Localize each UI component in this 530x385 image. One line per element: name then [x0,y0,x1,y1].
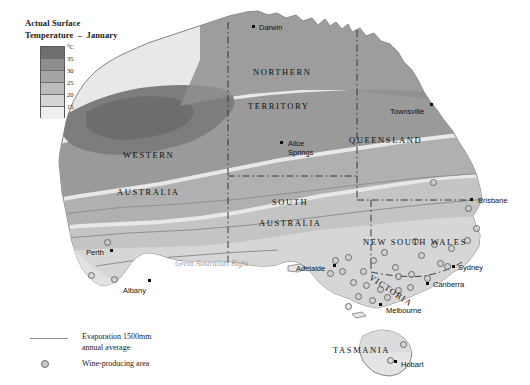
city-label-melbourne: Melbourne [386,307,421,316]
state-label-australia: AUSTRALIA [117,187,180,197]
wine-area-symbol [41,360,49,368]
legend-tick-15: 15 [67,103,74,110]
city-marker [470,198,473,201]
city-marker [280,141,283,144]
legend-band [41,95,64,107]
legend-title: Actual Surface Temperature – January [25,18,118,41]
legend-band [41,71,64,83]
city-marker [110,249,113,252]
city-marker [148,279,151,282]
map-figure: Actual Surface Temperature – January °C … [0,0,530,385]
temperature-scale [40,46,65,118]
sea-label: Great Australian Bight [175,258,248,269]
city-marker [252,25,255,28]
legend-band [41,47,64,59]
city-label-townsville: Townsville [390,108,424,117]
city-marker [379,303,382,306]
city-marker [430,103,433,106]
state-label-south: SOUTH [272,197,308,207]
city-label-hobart: Hobart [401,361,424,370]
city-label-sydney: Sydney [458,264,483,273]
city-label-alice: Alice Springs [288,140,313,157]
state-label-queensland: QUEENSLAND [349,135,422,145]
evaporation-legend-label: Evaporation 1500mm annual average [82,331,152,353]
legend-band [41,59,64,71]
city-marker [452,265,455,268]
sea-label: Gulf of Carpentaria [305,23,345,45]
australia-map [0,0,530,385]
legend-band [41,83,64,95]
city-label-canberra: Canberra [433,281,464,290]
city-label-perth: Perth [86,249,104,258]
city-marker [394,360,397,363]
city-label-adelaide: Adelaide [296,265,325,274]
wine-legend-label: Wine-producing area [82,359,149,368]
legend-tick-20: 20 [67,91,74,98]
legend-unit-label: °C [67,43,74,50]
state-label-australia: AUSTRALIA [259,218,322,228]
city-label-albany: Albany [123,287,146,296]
city-marker [333,264,336,267]
city-label-darwin: Darwin [259,24,282,33]
state-label-northern: NORTHERN [253,67,312,77]
legend-band [41,107,64,119]
evaporation-line-symbol [30,338,68,339]
city-label-brisbane: Brisbane [478,197,508,206]
legend-tick-35: 35 [67,55,74,62]
legend-tick-30: 30 [67,67,74,74]
state-label-territory: TERRITORY [248,101,309,111]
state-label-new-south-wales: NEW SOUTH WALES [363,237,467,247]
legend-tick-25: 25 [67,79,74,86]
state-label-tasmania: TASMANIA [333,345,390,355]
state-label-western: WESTERN [123,150,174,160]
city-marker [426,282,429,285]
